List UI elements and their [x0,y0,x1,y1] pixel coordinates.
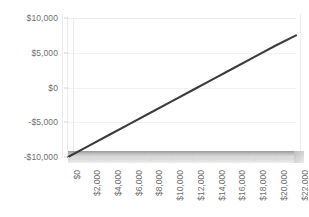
x-tick-label: $22,000 [300,170,309,201]
x-tick-mark [213,157,214,161]
x-tick-label: $6,000 [134,170,144,196]
x-tick-mark [68,157,69,161]
x-tick-label: $8,000 [154,170,164,196]
x-tick-label: $4,000 [113,170,123,196]
x-tick-mark [109,157,110,161]
x-axis: $0$2,000$4,000$6,000$8,000$10,000$12,000… [0,0,308,217]
x-tick-label: $0 [72,170,82,179]
x-tick-mark [234,157,235,161]
x-tick-label: $14,000 [217,170,227,201]
x-tick-mark [275,157,276,161]
x-tick-mark [172,157,173,161]
x-tick-label: $12,000 [196,170,206,201]
x-tick-mark [151,157,152,161]
x-tick-label: $2,000 [92,170,102,196]
x-tick-mark [130,157,131,161]
x-tick-label: $16,000 [237,170,247,201]
x-tick-label: $20,000 [279,170,289,201]
chart-container: $10,000 $5,000 $0 -$5,000 -$10,000 $0$2,… [0,0,308,217]
x-tick-mark [255,157,256,161]
x-tick-mark [192,157,193,161]
x-tick-label: $18,000 [258,170,268,201]
x-tick-label: $10,000 [175,170,185,201]
x-tick-mark [296,157,297,161]
x-tick-mark [89,157,90,161]
